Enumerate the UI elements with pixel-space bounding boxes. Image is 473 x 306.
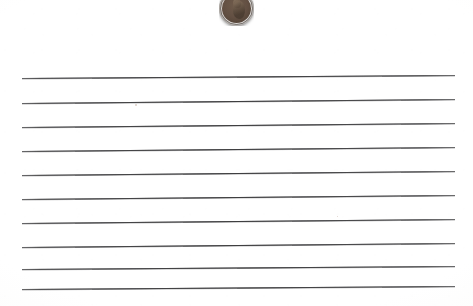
rule-line <box>22 99 455 104</box>
coin-body <box>219 0 254 26</box>
penny-coin <box>219 0 254 26</box>
rule-line <box>22 123 455 128</box>
rule-line <box>22 266 455 270</box>
scan-speck-1 <box>135 104 137 106</box>
rule-line <box>22 286 455 290</box>
rule-line <box>22 147 455 152</box>
lincoln-head-icon <box>233 0 241 8</box>
ruled-lines-group <box>0 0 473 306</box>
scanned-paper-scene <box>0 0 473 306</box>
scan-speck-2 <box>337 216 338 217</box>
rule-line <box>22 75 455 79</box>
rule-line <box>22 219 455 224</box>
rule-line <box>22 195 455 200</box>
rule-line <box>22 243 455 248</box>
rule-line <box>22 171 455 176</box>
coin-field <box>222 0 251 23</box>
